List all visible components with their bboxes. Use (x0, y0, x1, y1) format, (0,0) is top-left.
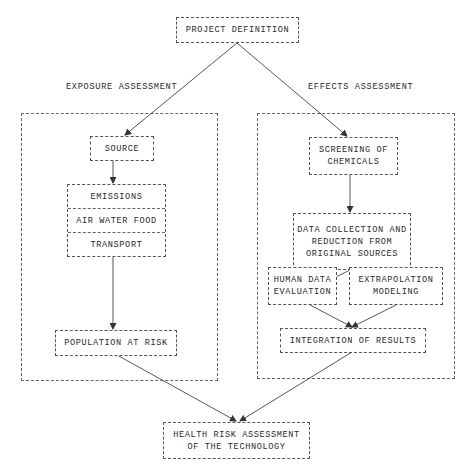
human-data-evaluation-box: HUMAN DATA EVALUATION (268, 267, 337, 305)
pathway-stack: EMISSIONS AIR WATER FOOD TRANSPORT (67, 184, 166, 257)
effects-assessment-label: EFFECTS ASSESSMENT (308, 82, 413, 92)
data-collection-box: DATA COLLECTION AND REDUCTION FROM ORIGI… (293, 213, 411, 270)
project-definition-box: PROJECT DEFINITION (176, 17, 299, 43)
transport-row: TRANSPORT (68, 233, 165, 257)
emissions-row: EMISSIONS (68, 185, 165, 209)
extrapolation-modeling-box: EXTRAPOLATION MODELING (349, 267, 443, 305)
screening-of-chemicals-box: SCREENING OF CHEMICALS (309, 137, 398, 175)
integration-of-results-box: INTEGRATION OF RESULTS (280, 328, 426, 353)
population-at-risk-box: POPULATION AT RISK (55, 330, 177, 356)
exposure-assessment-label: EXPOSURE ASSESSMENT (66, 82, 177, 92)
health-risk-assessment-box: HEALTH RISK ASSESSMENT OF THE TECHNOLOGY (163, 422, 310, 459)
air-water-food-row: AIR WATER FOOD (68, 209, 165, 233)
source-box: SOURCE (90, 136, 154, 161)
